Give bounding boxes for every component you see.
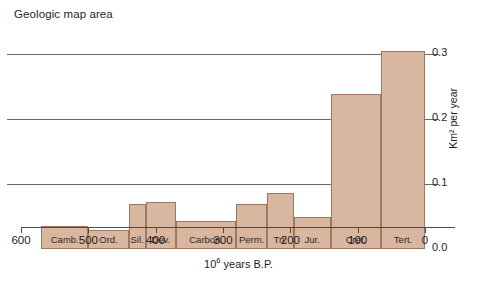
x-tick-0: 0 <box>422 234 428 246</box>
x-tick-mark-0 <box>425 228 426 233</box>
x-axis-label-prefix: 10 <box>204 258 216 270</box>
gridline-0_3 <box>7 54 439 55</box>
y-tick-0_0: 0.0 <box>432 241 447 253</box>
y-tick-0_1: 0.1 <box>432 176 447 188</box>
x-tick-600: 600 <box>11 234 30 246</box>
plot-area: Camb.Ord.Sil.Dev.Carbon.Perm.Tri.Jur.Cre… <box>21 22 425 227</box>
x-tick-mark-600 <box>21 228 22 233</box>
x-tick-mark-500 <box>88 228 89 233</box>
x-tick-mark-100 <box>358 228 359 233</box>
x-axis-line <box>21 227 455 228</box>
bar-tert <box>381 51 425 249</box>
y-tick-0_2: 0.2 <box>432 111 447 123</box>
x-tick-200: 200 <box>281 234 300 246</box>
bar-cret <box>331 94 382 249</box>
x-tick-400: 400 <box>146 234 165 246</box>
x-tick-mark-300 <box>223 228 224 233</box>
chart-title: Geologic map area <box>14 8 113 20</box>
x-axis-label-suffix: years B.P. <box>221 258 273 270</box>
geologic-map-area-chart: Geologic map area Camb.Ord.Sil.Dev.Carbo… <box>0 0 477 281</box>
x-tick-500: 500 <box>79 234 98 246</box>
x-axis-label: 106 years B.P. <box>0 256 477 270</box>
y-tick-0_3: 0.3 <box>432 46 447 58</box>
x-tick-300: 300 <box>213 234 232 246</box>
y-axis-label: Km² per year <box>447 88 459 149</box>
x-tick-mark-400 <box>156 228 157 233</box>
x-tick-100: 100 <box>348 234 367 246</box>
x-tick-mark-200 <box>290 228 291 233</box>
